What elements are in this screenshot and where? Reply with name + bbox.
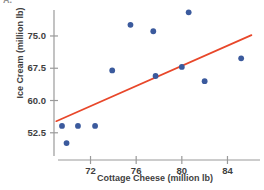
- data-point: [59, 123, 65, 129]
- data-point: [153, 73, 159, 79]
- y-tick-label: 60.0: [10, 95, 46, 106]
- y-tick-label: 52.5: [10, 127, 46, 138]
- data-point: [238, 55, 244, 61]
- data-points: [59, 9, 244, 146]
- x-tick-label: 84: [214, 165, 240, 176]
- x-tick-label: 72: [78, 165, 104, 176]
- data-point: [109, 67, 115, 73]
- data-point: [128, 22, 134, 28]
- data-point: [64, 140, 70, 146]
- scatter-chart: A. Ice Cream (million lb) Cottage Cheese…: [0, 0, 264, 190]
- data-point: [150, 28, 156, 34]
- data-point: [202, 78, 208, 84]
- data-point: [179, 64, 185, 70]
- data-point: [92, 123, 98, 129]
- data-point: [186, 9, 192, 15]
- x-tick-label: 80: [169, 165, 195, 176]
- y-tick-label: 67.5: [10, 62, 46, 73]
- y-axis-title: Ice Cream (million lb): [15, 5, 25, 101]
- data-point: [75, 123, 81, 129]
- x-tick-label: 76: [123, 165, 149, 176]
- y-tick-label: 75.0: [10, 30, 46, 41]
